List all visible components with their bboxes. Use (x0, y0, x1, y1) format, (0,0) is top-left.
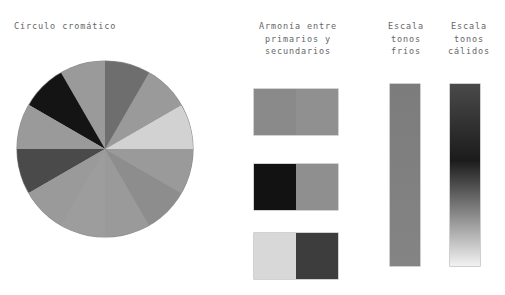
harmony-swatch-right (296, 233, 338, 279)
cool-tone-scale-bar (390, 84, 420, 266)
harmony-swatch-pair (254, 233, 338, 279)
harmony-swatch-right (296, 89, 338, 135)
harmony-swatch-pair (254, 89, 338, 135)
color-wheel (17, 61, 193, 237)
harmony-swatch-right (296, 164, 338, 210)
harmony-swatch-left (254, 233, 296, 279)
harmony-swatch-left (254, 89, 296, 135)
section-title-harmony: Armonía entre primarios y secundarios (252, 20, 344, 58)
section-title-warm-scale: Escala tonos cálidos (440, 20, 498, 58)
section-title-cool-scale: Escala tonos fríos (380, 20, 432, 58)
color-wheel-disc (17, 61, 193, 237)
harmony-swatch-left (254, 164, 296, 210)
warm-tone-scale-bar (450, 84, 480, 266)
harmony-swatch-pair (254, 164, 338, 210)
page-title-color-wheel: Círculo cromático (14, 20, 116, 33)
